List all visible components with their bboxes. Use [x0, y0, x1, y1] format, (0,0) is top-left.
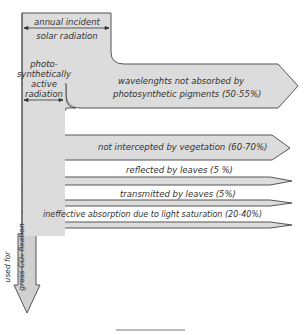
loss-reflected: reflected by leaves (5 %) — [126, 165, 233, 175]
column-fill — [23, 14, 65, 236]
output-label-line1: used for — [3, 247, 13, 287]
loss-wavelengths-line1: wavelenghts not absorbed by — [118, 76, 244, 86]
loss-wavelengths-line2: photosynthetic pigments (50-55%) — [113, 89, 261, 99]
output-label-line2: gross CO₂ fixation — [17, 217, 27, 297]
loss-transmitted: transmitted by leaves (5%) — [120, 189, 236, 199]
par-label-line4: radiation — [16, 89, 72, 99]
par-label-line2: synthetically — [16, 69, 72, 79]
incident-label-line2: solar radiation — [24, 31, 110, 41]
loss-not-intercepted: not intercepted by vegetation (60-70%) — [98, 142, 267, 152]
incident-label-line1: annual incident — [24, 17, 110, 27]
par-label-line1: photo- — [16, 59, 72, 69]
loss-ineffective-absorption: ineffective absorption due to light satu… — [43, 210, 262, 220]
par-label-line3: active — [16, 79, 72, 89]
